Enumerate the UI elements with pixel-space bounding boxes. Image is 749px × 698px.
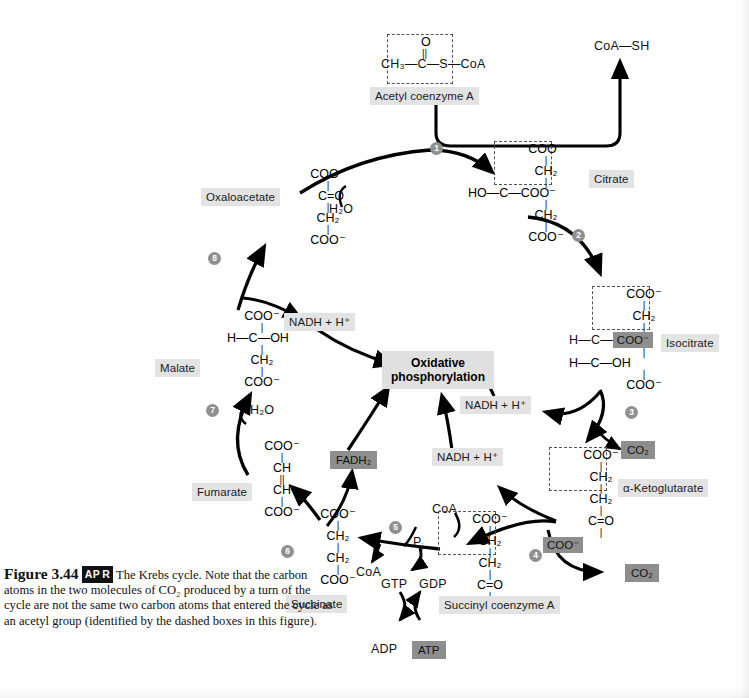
citrate-row-1: COO⁻: [468, 143, 588, 156]
akg-row-4: C=O: [523, 515, 643, 528]
step-circle-1: 1: [430, 142, 443, 155]
label-adp: ADP: [371, 643, 397, 656]
isocitrate-bond-2: |: [566, 323, 686, 332]
isocitrate-row-4: H—C—OH: [566, 357, 686, 370]
molecule-fumarate-structure: COO⁻ | CH || CH | COO⁻: [242, 440, 322, 519]
akg-row-5: COO⁻: [523, 537, 643, 553]
akg-highlighted-coo: COO⁻: [543, 537, 583, 553]
label-oxaloacetate: Oxaloacetate: [201, 188, 280, 206]
step-circle-2: 2: [572, 229, 585, 242]
molecule-oxaloacetate-structure: COO⁻ | C=O | CH₂ | COO⁻: [288, 168, 368, 247]
label-fumarate: Fumarate: [192, 483, 252, 501]
figure-caption: Figure 3.44 APR The Krebs cycle. Note th…: [4, 566, 334, 629]
fumarate-row-4: COO⁻: [242, 506, 322, 519]
label-citrate: Citrate: [589, 170, 634, 188]
akg-bond-1: |: [523, 462, 643, 471]
isocitrate-h-c: H—C—: [569, 333, 613, 347]
label-gdp: GDP: [419, 578, 447, 591]
acetyl-atom-o: O: [381, 36, 501, 49]
isocitrate-highlighted-coo: COO⁻: [613, 332, 653, 348]
label-nadh-step8: NADH + H⁺: [284, 313, 355, 331]
molecule-citrate-structure: COO⁻ | CH₂ | HO—C—COO⁻ | CH₂ | COO⁻: [468, 143, 588, 244]
isocitrate-bond-1: |: [566, 301, 686, 310]
label-gtp: GTP: [381, 578, 407, 591]
step-circle-7: 7: [206, 404, 219, 417]
citrate-row-2: CH₂: [468, 165, 588, 178]
figure-number: Figure 3.44: [4, 565, 79, 582]
step-circle-5: 5: [389, 521, 402, 534]
isocitrate-row-1: COO⁻: [566, 288, 686, 301]
acetyl-formula: CH₃—C—S—CoA: [381, 57, 486, 71]
citrate-row-5: COO⁻: [468, 231, 588, 244]
oxa-row-4: COO⁻: [288, 234, 368, 247]
label-pi: Pi: [413, 536, 424, 554]
label-malate: Malate: [155, 359, 200, 377]
molecule-acetyl-coa-structure: O || CH₃—C—S—CoA: [381, 36, 501, 71]
label-alpha-ketoglutarate: α-Ketoglutarate: [618, 479, 708, 497]
citrate-row-4: CH₂: [468, 209, 588, 222]
succoa-row-1: COO⁻: [412, 513, 532, 526]
badge-r: R: [102, 568, 110, 580]
label-atp: ATP: [412, 641, 446, 659]
step-circle-6: 6: [281, 545, 294, 558]
badge-ap: AP: [85, 568, 100, 580]
caption-line-1: The Krebs cycle. Note: [116, 568, 229, 582]
label-nadh-step4: NADH + H⁺: [432, 448, 503, 466]
akg-bond-4: |: [523, 528, 643, 537]
citrate-bond-1: |: [468, 156, 588, 165]
akg-bond-3: |: [523, 506, 643, 515]
oxidative-phosphorylation-box: Oxidative phosphorylation: [382, 351, 494, 389]
acetyl-chain: CH₃—C—S—CoA: [381, 58, 501, 71]
ap-r-badge: APR: [82, 566, 113, 583]
isocitrate-row-5: COO⁻: [566, 379, 686, 392]
citrate-bond-3: |: [468, 200, 588, 209]
isocitrate-row-2: CH₂: [566, 310, 686, 323]
pi-subscript: i: [422, 542, 424, 552]
malate-row-2: H—C—OH: [214, 332, 302, 345]
label-water-step7: H₂O: [250, 404, 274, 417]
akg-row-1: COO⁻: [523, 449, 643, 462]
page-bottom-shadow: [0, 686, 749, 698]
page-edge-shadow: [731, 0, 749, 698]
succoa-bond-1: |: [412, 526, 532, 535]
citrate-row-3: HO—C—COO⁻: [468, 187, 588, 200]
label-nadh-step3: NADH + H⁺: [460, 396, 531, 414]
oxa-row-2: C=O: [294, 190, 368, 203]
label-acetyl-coenzyme-a: Acetyl coenzyme A: [370, 87, 479, 105]
label-coa-sh: CoA—SH: [594, 40, 649, 53]
figure-page: O || CH₃—C—S—CoA Acetyl coenzyme A CoA—S…: [0, 0, 749, 698]
succoa-row-2: CH₂: [412, 535, 532, 548]
label-fadh2: FADH₂: [330, 451, 377, 469]
succoa-row-3: CH₂: [412, 557, 532, 570]
label-co2-step4: CO₂: [625, 564, 659, 582]
oxphos-line-1: Oxidative: [391, 356, 485, 370]
step-circle-8: 8: [208, 252, 221, 265]
malate-row-4: COO⁻: [222, 376, 302, 389]
molecule-alpha-ketoglutarate-structure: COO⁻ | CH₂ | CH₂ | C=O | COO⁻: [523, 449, 643, 553]
succoa-bond-2: |: [412, 548, 532, 557]
label-isocitrate: Isocitrate: [661, 334, 719, 352]
caption-line-5: group (identified by the dashed boxes in…: [52, 614, 317, 628]
label-succinyl-coenzyme-a: Succinyl coenzyme A: [439, 596, 560, 614]
pi-symbol: P: [413, 535, 422, 549]
step-circle-3: 3: [625, 406, 638, 419]
oxphos-line-2: phosphorylation: [391, 370, 485, 384]
